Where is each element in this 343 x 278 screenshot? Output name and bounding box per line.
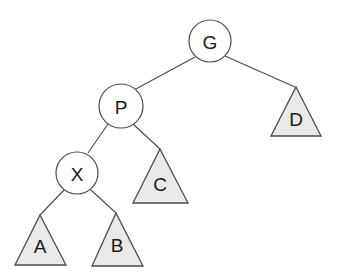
circle-node-g: G (189, 20, 231, 62)
tree-canvas: D C A B G P X (0, 0, 343, 278)
triangle-label-a: A (34, 236, 47, 257)
edge-g-d (225, 56, 295, 87)
circle-node-x: X (56, 152, 98, 194)
triangle-node-c: C (133, 149, 188, 203)
triangle-node-d: D (271, 87, 321, 136)
circle-label-p: P (115, 97, 128, 118)
triangle-label-b: B (111, 235, 124, 256)
triangle-label-c: C (153, 174, 167, 195)
edge-g-p (134, 57, 195, 90)
edge-p-c (133, 124, 160, 149)
edge-p-x (88, 124, 108, 153)
edge-x-b (91, 190, 116, 213)
binary-tree-diagram: D C A B G P X (0, 0, 343, 278)
circle-label-g: G (203, 32, 218, 53)
triangle-node-b: B (92, 213, 143, 266)
triangle-label-d: D (289, 109, 303, 130)
circle-label-x: X (71, 164, 84, 185)
triangle-node-a: A (15, 215, 66, 265)
edge-x-a (40, 190, 64, 215)
circle-node-p: P (99, 84, 143, 128)
